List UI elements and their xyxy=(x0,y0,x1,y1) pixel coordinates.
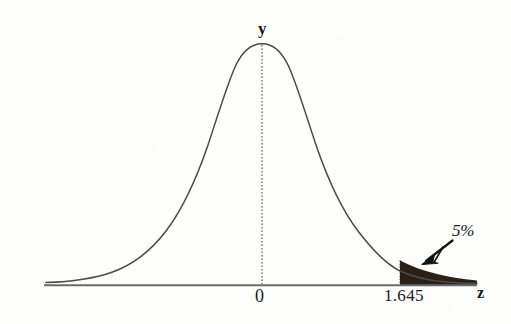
critical-value-label: 1.645 xyxy=(384,287,424,304)
y-axis-label: y xyxy=(258,20,267,37)
mean-tick-label: 0 xyxy=(255,287,264,305)
distribution-chart xyxy=(0,0,511,324)
normal-distribution-figure: y 0 1.645 z 5% xyxy=(0,0,511,324)
x-axis-label: z xyxy=(477,285,484,301)
bell-curve xyxy=(46,44,477,284)
tail-callout-arrow xyxy=(422,241,453,265)
tail-area-label: 5% xyxy=(452,222,474,239)
